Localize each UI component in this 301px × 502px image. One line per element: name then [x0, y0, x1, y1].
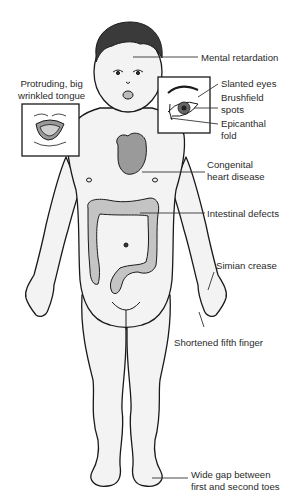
- label-shortened-fifth-finger: Shortened fifth finger: [174, 337, 263, 349]
- child-figure-illustration: [0, 0, 301, 502]
- mouth: [123, 91, 133, 99]
- label-wide-gap-toes: Wide gap between first and second toes: [191, 469, 280, 492]
- label-slanted-eyes: Slanted eyes: [221, 78, 276, 90]
- label-congenital-heart-disease: Congenital heart disease: [207, 159, 265, 182]
- label-epicanthal-fold: Epicanthal fold: [221, 118, 266, 141]
- tongue-inset: [22, 104, 79, 156]
- label-protruding-tongue: Protruding, big wrinkled tongue: [18, 78, 85, 101]
- eye-inset: [158, 77, 210, 133]
- label-simian-crease: Simian crease: [216, 260, 277, 272]
- label-brushfield-spots: Brushfield spots: [221, 92, 264, 115]
- label-mental-retardation: Mental retardation: [201, 52, 278, 64]
- label-intestinal-defects: Intestinal defects: [207, 208, 279, 220]
- left-arm: [26, 157, 80, 316]
